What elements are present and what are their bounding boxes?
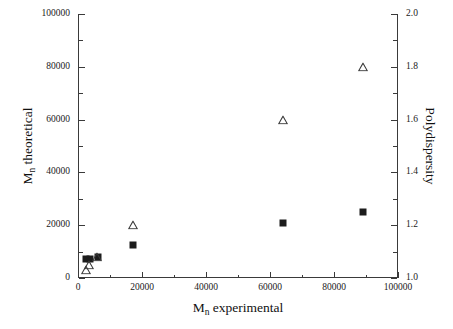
y-axis-left-title-m: M [20, 173, 35, 185]
tick-yl-major [79, 120, 85, 121]
marker-open-triangle [358, 62, 368, 71]
tick-yl-major [79, 225, 85, 226]
tick-yr-major [391, 120, 397, 121]
ticklabel-xb: 80000 [322, 283, 346, 293]
tick-yl-minor [79, 199, 82, 200]
ticklabel-yr: 1.6 [406, 115, 418, 125]
x-axis-title-rest: experimental [209, 300, 283, 315]
marker-open-triangle [278, 115, 288, 124]
ticklabel-xb: 100000 [384, 283, 413, 293]
marker-filled-square [130, 242, 137, 249]
ticklabel-xb: 20000 [130, 283, 154, 293]
tick-yl-major [79, 172, 85, 173]
y-axis-right-title: Polydispersity [422, 107, 438, 184]
tick-yr-major [391, 225, 397, 226]
marker-open-triangle [84, 260, 94, 269]
ticklabel-xb: 0 [76, 283, 81, 293]
marker-open-triangle [92, 252, 102, 261]
y-axis-left-title: Mn theoretical [20, 107, 36, 184]
x-axis-title: Mn experimental [193, 300, 284, 316]
tick-yl-major [79, 67, 85, 68]
tick-xb-minor [238, 275, 239, 278]
tick-yl-major [79, 278, 85, 279]
tick-xb-minor [302, 275, 303, 278]
y-axis-left-title-sub: n [27, 168, 37, 173]
tick-yr-minor [393, 146, 396, 147]
tick-yl-minor [79, 252, 82, 253]
y-axis-left-title-rest: theoretical [20, 107, 35, 167]
tick-yl-minor [79, 93, 82, 94]
ticklabel-yl: 0 [65, 273, 70, 283]
axis-spine-right [397, 14, 398, 278]
tick-xb-minor [366, 275, 367, 278]
tick-yr-minor [393, 252, 396, 253]
tick-xb-minor [174, 275, 175, 278]
tick-yr-major [391, 14, 397, 15]
tick-xb-major [142, 272, 143, 278]
ticklabel-yr: 2.0 [406, 9, 418, 19]
ticklabel-yl: 20000 [46, 220, 70, 230]
ticklabel-yl: 40000 [46, 168, 70, 178]
x-axis-title-m: M [193, 300, 205, 315]
ticklabel-xb: 40000 [194, 283, 218, 293]
ticklabel-xb: 60000 [258, 283, 282, 293]
tick-xb-major [270, 272, 271, 278]
ticklabel-yl: 60000 [46, 115, 70, 125]
tick-yl-minor [79, 40, 82, 41]
ticklabel-yr: 1.8 [406, 62, 418, 72]
tick-xb-minor [110, 275, 111, 278]
figure-scatter-plot: 0200004000060000800001000001.01.21.41.61… [0, 0, 453, 329]
ticklabel-yr: 1.4 [406, 168, 418, 178]
tick-yl-minor [79, 146, 82, 147]
tick-yr-minor [393, 199, 396, 200]
tick-xb-major [78, 272, 79, 278]
marker-filled-square [280, 219, 287, 226]
tick-yr-major [391, 278, 397, 279]
ticklabel-yl: 80000 [46, 62, 70, 72]
marker-open-triangle [128, 221, 138, 230]
tick-xb-major [334, 272, 335, 278]
tick-yr-minor [393, 93, 396, 94]
tick-xb-major [398, 272, 399, 278]
y-axis-right-title-text: Polydispersity [423, 107, 438, 184]
tick-yr-minor [393, 40, 396, 41]
tick-xb-major [206, 272, 207, 278]
marker-filled-square [360, 209, 367, 216]
tick-yl-major [79, 14, 85, 15]
ticklabel-yr: 1.2 [406, 220, 418, 230]
x-axis-title-sub: n [205, 307, 210, 317]
ticklabel-yl: 100000 [42, 9, 71, 19]
tick-yr-major [391, 67, 397, 68]
tick-yr-major [391, 172, 397, 173]
plot-area [78, 14, 398, 278]
